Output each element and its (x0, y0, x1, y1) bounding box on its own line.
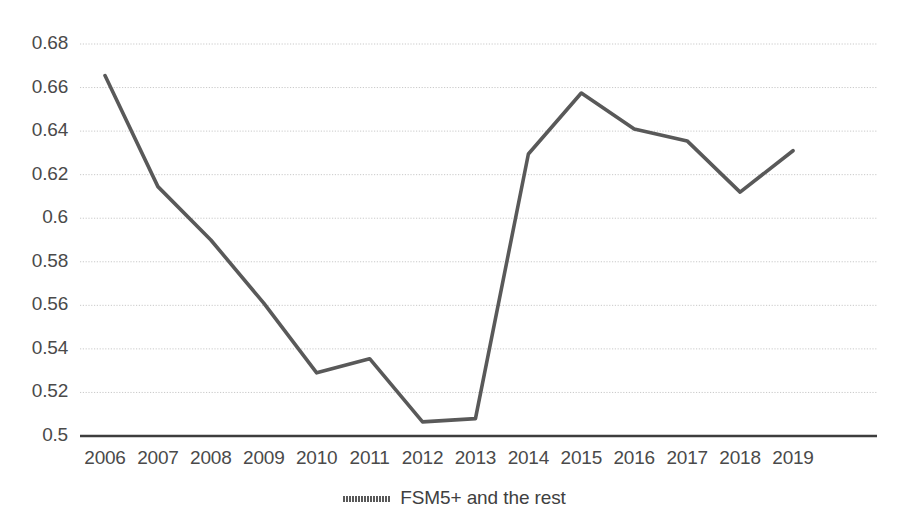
x-axis-tick-label: 2008 (181, 447, 241, 469)
x-axis-tick-label: 2007 (128, 447, 188, 469)
gridlines (80, 44, 877, 392)
series-line (105, 76, 793, 422)
legend-line-swatch-icon (343, 496, 391, 502)
x-axis-tick-label: 2015 (551, 447, 611, 469)
x-axis-tick-label: 2011 (340, 447, 400, 469)
y-axis-tick-label: 0.5 (6, 424, 68, 446)
y-axis-tick-label: 0.58 (6, 250, 68, 272)
y-axis-tick-label: 0.6 (6, 206, 68, 228)
y-axis-tick-label: 0.54 (6, 337, 68, 359)
x-axis-tick-label: 2010 (287, 447, 347, 469)
y-axis-tick-label: 0.66 (6, 76, 68, 98)
y-axis-tick-label: 0.62 (6, 163, 68, 185)
data-series-line (105, 76, 793, 422)
legend-label: FSM5+ and the rest (400, 487, 566, 509)
y-axis-tick-label: 0.56 (6, 293, 68, 315)
x-axis-tick-label: 2006 (75, 447, 135, 469)
x-axis-tick-label: 2017 (657, 447, 717, 469)
y-axis-tick-label: 0.52 (6, 380, 68, 402)
x-axis-tick-label: 2016 (604, 447, 664, 469)
x-axis-tick-label: 2009 (234, 447, 294, 469)
x-axis-tick-label: 2019 (763, 447, 823, 469)
line-chart: 0.680.660.640.620.60.580.560.540.520.5 2… (0, 0, 909, 529)
x-axis-tick-label: 2013 (445, 447, 505, 469)
x-axis-tick-label: 2018 (710, 447, 770, 469)
chart-legend: FSM5+ and the rest (0, 487, 909, 509)
x-axis-tick-label: 2012 (393, 447, 453, 469)
x-axis-tick-label: 2014 (498, 447, 558, 469)
y-axis-tick-label: 0.64 (6, 119, 68, 141)
y-axis-tick-label: 0.68 (6, 32, 68, 54)
